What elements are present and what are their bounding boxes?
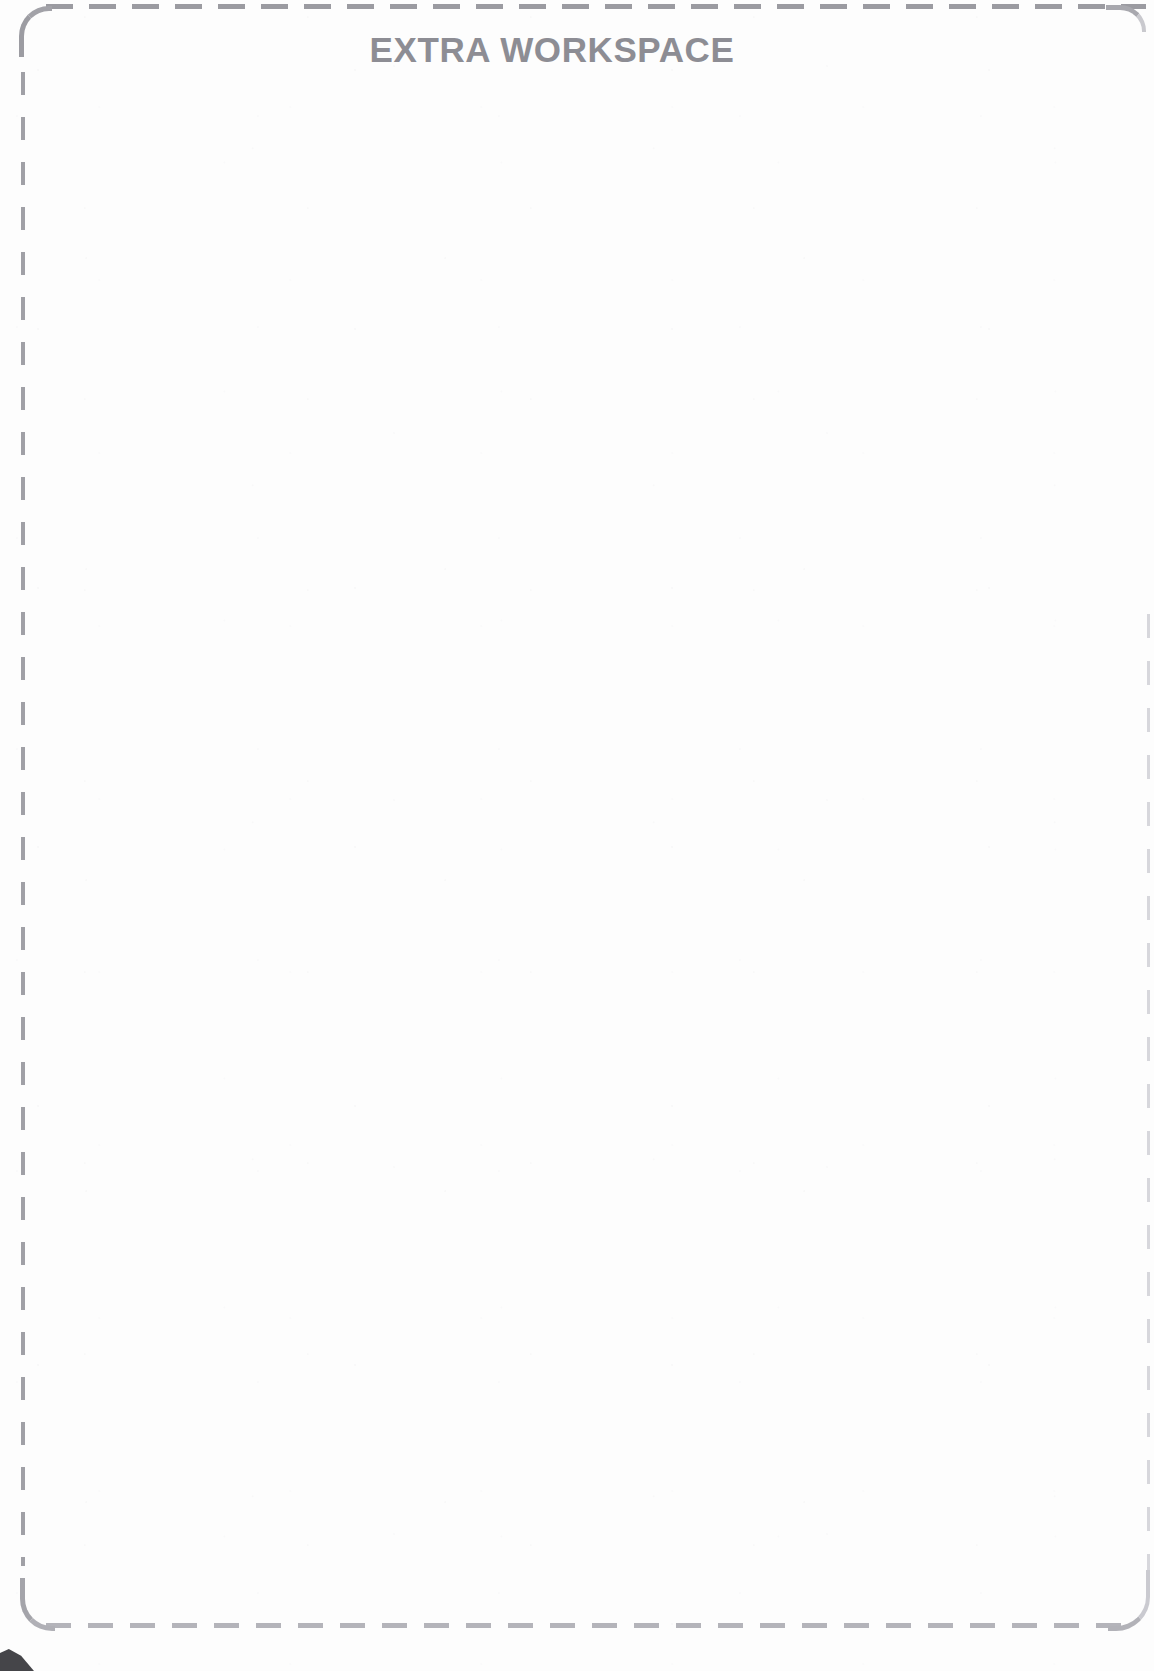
page-title: EXTRA WORKSPACE <box>0 30 1104 70</box>
workspace-writing-area[interactable] <box>30 90 1136 1610</box>
extra-workspace-page: EXTRA WORKSPACE <box>0 0 1154 1671</box>
workspace-corner-top-right <box>1106 5 1146 32</box>
workspace-border-left <box>21 72 25 1566</box>
workspace-border-right <box>1147 614 1150 1574</box>
workspace-border-bottom <box>46 1623 1136 1628</box>
workspace-border-top <box>46 4 1146 9</box>
scan-artifact <box>0 1648 34 1671</box>
